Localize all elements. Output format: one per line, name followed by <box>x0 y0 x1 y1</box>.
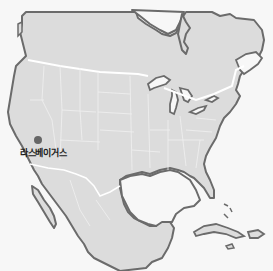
land-bahamas <box>224 204 232 218</box>
location-marker-las-vegas[interactable] <box>34 136 42 144</box>
land-jamaica <box>226 244 234 249</box>
land-cuba <box>194 224 244 238</box>
north-america-map <box>0 0 273 271</box>
marker-label-las-vegas: 라스베이거스 <box>20 146 66 159</box>
land-hispaniola <box>248 230 264 238</box>
map-canvas[interactable]: 라스베이거스 <box>0 0 273 271</box>
